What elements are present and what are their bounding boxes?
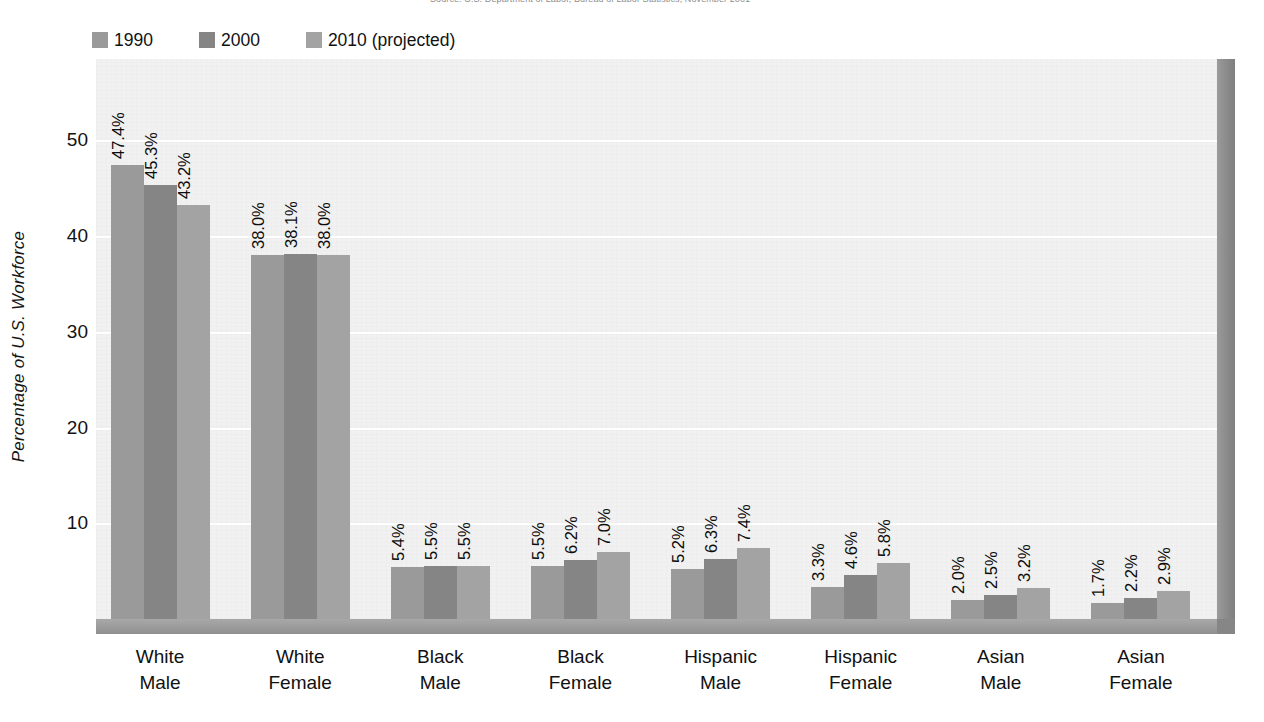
plot-wall: 47.4%45.3%43.2%38.0%38.1%38.0%5.4%5.5%5.…: [96, 59, 1217, 619]
bar-value-label: 7.0%: [595, 508, 614, 546]
bar-value-label: 4.6%: [842, 531, 861, 569]
bar-value-label: 1.7%: [1089, 559, 1108, 597]
bar-group: 3.3%4.6%5.8%: [811, 59, 910, 619]
x-axis-label-line: Asian: [1071, 644, 1211, 670]
bar[interactable]: [317, 255, 350, 619]
bar-value-label: 2.9%: [1155, 548, 1174, 586]
bar-group: 38.0%38.1%38.0%: [251, 59, 350, 619]
bar[interactable]: [704, 559, 737, 619]
x-axis-label-line: Female: [1071, 670, 1211, 696]
y-axis-tick-labels: 5040302010: [40, 59, 88, 619]
legend-item-1990[interactable]: 1990: [92, 30, 153, 51]
x-axis-label-line: Black: [370, 644, 510, 670]
y-axis-tick-label: 20: [48, 417, 88, 439]
y-axis-title-container: Percentage of U.S. Workforce: [8, 59, 34, 634]
x-axis-label-line: Asian: [931, 644, 1071, 670]
x-axis-label: WhiteFemale: [230, 644, 370, 696]
bar[interactable]: [1091, 603, 1124, 619]
x-axis-label-line: White: [230, 644, 370, 670]
x-axis-label: WhiteMale: [90, 644, 230, 696]
x-axis-label: HispanicMale: [651, 644, 791, 696]
bar-value-label: 3.2%: [1015, 545, 1034, 583]
bar-value-label: 6.2%: [562, 516, 581, 554]
bar[interactable]: [737, 548, 770, 619]
x-axis-label-line: Female: [510, 670, 650, 696]
x-axis-label-line: Male: [90, 670, 230, 696]
y-axis-title: Percentage of U.S. Workforce: [6, 59, 32, 634]
bar-group: 5.4%5.5%5.5%: [391, 59, 490, 619]
plot-floor: [96, 619, 1217, 634]
legend-swatch-1990-icon: [92, 32, 108, 48]
bar-groups: 47.4%45.3%43.2%38.0%38.1%38.0%5.4%5.5%5.…: [96, 59, 1217, 619]
bar[interactable]: [424, 566, 457, 619]
bar-value-label: 5.5%: [455, 523, 474, 561]
bar[interactable]: [1124, 598, 1157, 619]
bar-value-label: 5.8%: [875, 520, 894, 558]
bar[interactable]: [284, 254, 317, 619]
y-axis-tick-label: 50: [48, 129, 88, 151]
chart-legend: 1990 2000 2010 (projected): [92, 29, 455, 51]
bar[interactable]: [1017, 588, 1050, 619]
x-axis-label-line: Male: [370, 670, 510, 696]
legend-label-1990: 1990: [114, 30, 153, 51]
bar-value-label: 6.3%: [702, 515, 721, 553]
bar-value-label: 2.2%: [1122, 554, 1141, 592]
legend-item-2010[interactable]: 2010 (projected): [306, 30, 455, 51]
bar[interactable]: [811, 587, 844, 619]
bar-value-label: 38.0%: [249, 202, 268, 249]
bar[interactable]: [984, 595, 1017, 619]
x-axis-label-line: Black: [510, 644, 650, 670]
x-axis-label: BlackFemale: [510, 644, 650, 696]
bar-group: 1.7%2.2%2.9%: [1091, 59, 1190, 619]
chart-page: Source: U.S. Department of Labor, Bureau…: [0, 0, 1264, 722]
bar[interactable]: [844, 575, 877, 619]
bar[interactable]: [877, 563, 910, 619]
bar-value-label: 5.4%: [389, 524, 408, 562]
bar[interactable]: [251, 255, 284, 619]
bar-group: 47.4%45.3%43.2%: [111, 59, 210, 619]
legend-label-2000: 2000: [221, 30, 260, 51]
bar[interactable]: [177, 205, 210, 619]
x-axis-labels: WhiteMaleWhiteFemaleBlackMaleBlackFemale…: [96, 644, 1217, 702]
bar[interactable]: [1157, 591, 1190, 619]
bar[interactable]: [391, 567, 424, 619]
bar[interactable]: [597, 552, 630, 619]
bar[interactable]: [457, 566, 490, 619]
bar[interactable]: [564, 560, 597, 619]
plot-right-wall: [1217, 59, 1235, 619]
bar[interactable]: [111, 165, 144, 619]
x-axis-label-line: Female: [230, 670, 370, 696]
bar-value-label: 47.4%: [109, 112, 128, 159]
x-axis-label-line: Male: [931, 670, 1071, 696]
legend-swatch-2000-icon: [199, 32, 215, 48]
legend-swatch-2010-icon: [306, 32, 322, 48]
bar-value-label: 43.2%: [175, 153, 194, 200]
plot-floor-corner: [1217, 619, 1235, 634]
x-axis-label-line: Hispanic: [651, 644, 791, 670]
y-axis-tick-label: 30: [48, 321, 88, 343]
bar-value-label: 7.4%: [735, 505, 754, 543]
source-note: Source: U.S. Department of Labor, Bureau…: [430, 0, 750, 4]
x-axis-label-line: Hispanic: [791, 644, 931, 670]
bar-group: 2.0%2.5%3.2%: [951, 59, 1050, 619]
bar-value-label: 38.0%: [315, 202, 334, 249]
bar-value-label: 45.3%: [142, 133, 161, 180]
bar-group: 5.5%6.2%7.0%: [531, 59, 630, 619]
bar-value-label: 3.3%: [809, 544, 828, 582]
bar-value-label: 2.0%: [949, 556, 968, 594]
legend-item-2000[interactable]: 2000: [199, 30, 260, 51]
bar[interactable]: [951, 600, 984, 619]
y-axis-tick-label: 40: [48, 225, 88, 247]
legend-label-2010: 2010 (projected): [328, 30, 455, 51]
x-axis-label-line: Female: [791, 670, 931, 696]
x-axis-label: BlackMale: [370, 644, 510, 696]
x-axis-label: HispanicFemale: [791, 644, 931, 696]
bar-value-label: 5.5%: [529, 523, 548, 561]
bar[interactable]: [531, 566, 564, 619]
bar[interactable]: [144, 185, 177, 619]
plot-area: 47.4%45.3%43.2%38.0%38.1%38.0%5.4%5.5%5.…: [96, 59, 1235, 634]
x-axis-label-line: Male: [651, 670, 791, 696]
x-axis-label: AsianMale: [931, 644, 1071, 696]
x-axis-label: AsianFemale: [1071, 644, 1211, 696]
bar[interactable]: [671, 569, 704, 619]
